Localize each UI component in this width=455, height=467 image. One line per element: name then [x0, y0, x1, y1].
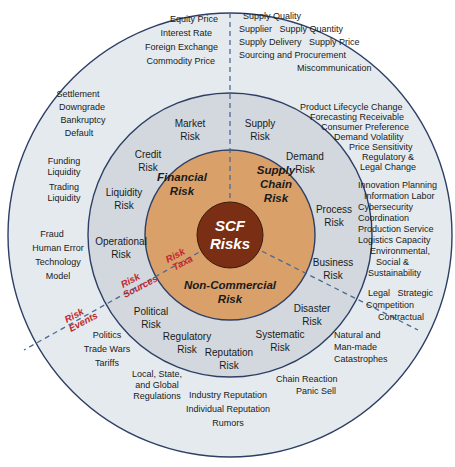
source-credit-line2: Risk: [135, 161, 162, 174]
source-reputation-line2: Risk: [205, 359, 253, 372]
event-logistics-capacity: Logistics Capacity: [358, 235, 437, 246]
events-process: Innovation Planning Information Labor Cy…: [358, 180, 437, 279]
events-operational: Fraud Human Error Technology Model: [32, 227, 84, 283]
source-reputation-risk: ReputationRisk: [205, 346, 253, 372]
source-regulatory-risk: RegulatoryRisk: [163, 330, 211, 356]
event-rumors: Rumors: [186, 416, 270, 430]
taxa-financial: Financial Risk: [157, 170, 207, 198]
event-individual-reputation: Individual Reputation: [186, 402, 270, 416]
event-competition: Competition: [366, 299, 433, 311]
source-political-line2: Risk: [134, 318, 168, 331]
events-demand: Product Lifecycle Change Forecasting Rec…: [300, 102, 416, 172]
source-supply-line2: Risk: [245, 130, 276, 143]
source-credit-risk: CreditRisk: [135, 148, 162, 174]
events-political: Politics Trade Wars Tariffs: [84, 328, 130, 370]
source-political-risk: PoliticalRisk: [134, 305, 168, 331]
event-regulatory-legal-2: Legal Change: [300, 162, 416, 172]
event-interest-rate: Interest Rate: [145, 26, 220, 40]
event-and-global: and Global: [132, 380, 182, 391]
taxa-supply-chain-line2: Chain: [257, 177, 295, 191]
event-human-error: Human Error: [32, 241, 84, 255]
event-funding: Funding: [47, 156, 80, 167]
event-consumer-preference: Consumer Preference: [300, 122, 416, 132]
events-market: Equity Price Interest Rate Foreign Excha…: [145, 12, 220, 68]
event-regulatory-legal-1: Regulatory &: [300, 152, 416, 162]
event-fraud: Fraud: [32, 227, 84, 241]
source-disaster-risk: DisasterRisk: [294, 302, 331, 328]
source-systematic-risk: SystematicRisk: [256, 328, 305, 354]
source-operational-risk: OperationalRisk: [95, 235, 147, 261]
event-demand-volatility: Demand Volatility: [300, 132, 416, 142]
source-process-line1: Process: [316, 203, 352, 216]
event-sustainability: Sustainability: [358, 268, 437, 279]
event-funding-liquidity: Liquidity: [47, 167, 80, 178]
source-market-line1: Market: [175, 117, 206, 130]
event-industry-reputation: Industry Reputation: [186, 388, 270, 402]
source-liquidity-risk: LiquidityRisk: [106, 186, 143, 212]
event-sourcing: Sourcing and Procurement: [239, 49, 372, 62]
source-systematic-line2: Risk: [256, 341, 305, 354]
source-business-risk: BusinessRisk: [313, 256, 354, 282]
event-forecasting-receivable: Forecasting Receivable: [300, 112, 416, 122]
event-trading-liquidity: Liquidity: [47, 193, 80, 204]
event-commodity-price: Commodity Price: [145, 54, 220, 68]
event-contractual: Contractual: [366, 311, 433, 323]
event-social: Social &: [358, 257, 437, 268]
events-liquidity: Funding Liquidity Trading Liquidity: [47, 156, 80, 204]
source-liquidity-line1: Liquidity: [106, 186, 143, 199]
event-model: Model: [32, 269, 84, 283]
event-legal-strategic: Legal Strategic: [366, 287, 433, 299]
event-environmental: Environmental,: [358, 246, 437, 257]
events-disaster: Natural and Man-made Catastrophes: [334, 329, 388, 365]
source-business-line1: Business: [313, 256, 354, 269]
event-miscommunication: Miscommunication: [239, 62, 372, 75]
event-catastrophes: Catastrophes: [334, 353, 388, 365]
source-operational-line2: Risk: [95, 248, 147, 261]
source-disaster-line1: Disaster: [294, 302, 331, 315]
event-downgrade: Downgrade: [50, 101, 105, 114]
event-settlement: Settlement: [50, 88, 105, 101]
event-default: Default: [50, 127, 105, 140]
taxa-supply-chain-line3: Risk: [257, 191, 295, 205]
event-information-labor: Information Labor: [358, 191, 437, 202]
event-supply-quality: Supply Quality: [239, 10, 372, 23]
event-panic-sell: Panic Sell: [276, 385, 338, 397]
taxa-financial-line2: Risk: [157, 184, 207, 198]
events-business: Legal Strategic Competition Contractual: [366, 287, 433, 323]
taxa-non-commercial: Non-Commercial Risk: [184, 278, 276, 306]
event-chain-reaction: Chain Reaction: [276, 373, 338, 385]
source-business-line2: Risk: [313, 269, 354, 282]
source-regulatory-line1: Regulatory: [163, 330, 211, 343]
source-supply-line1: Supply: [245, 117, 276, 130]
event-cybersecurity: Cybersecurity: [358, 202, 437, 213]
source-liquidity-line2: Risk: [106, 199, 143, 212]
taxa-non-commercial-line2: Risk: [184, 292, 276, 306]
center-label: SCF Risks: [210, 217, 250, 253]
event-local-state: Local, State,: [132, 369, 182, 380]
taxa-non-commercial-line1: Non-Commercial: [184, 278, 276, 292]
taxa-financial-line1: Financial: [157, 170, 207, 184]
event-technology: Technology: [32, 255, 84, 269]
center-line2: Risks: [210, 235, 250, 253]
source-process-risk: ProcessRisk: [316, 203, 352, 229]
event-regulations: Regulations: [132, 391, 182, 402]
event-bankruptcy: Bankruptcy: [50, 114, 105, 127]
event-delivery-price: Supply Delivery Supply Price: [239, 36, 372, 49]
events-supply: Supply Quality Supplier Supply Quantity …: [239, 10, 372, 75]
event-trade-wars: Trade Wars: [84, 342, 130, 356]
source-regulatory-line2: Risk: [163, 343, 211, 356]
event-price-sensitivity: Price Sensitivity: [300, 142, 416, 152]
event-natural: Natural and: [334, 329, 388, 341]
events-reputation: Industry Reputation Individual Reputatio…: [186, 388, 270, 430]
event-politics: Politics: [84, 328, 130, 342]
events-credit: Settlement Downgrade Bankruptcy Default: [50, 88, 105, 140]
source-reputation-line1: Reputation: [205, 346, 253, 359]
event-trading: Trading: [47, 182, 80, 193]
center-line1: SCF: [210, 217, 250, 235]
event-equity-price: Equity Price: [145, 12, 220, 26]
event-man-made: Man-made: [334, 341, 388, 353]
source-supply-risk: SupplyRisk: [245, 117, 276, 143]
source-political-line1: Political: [134, 305, 168, 318]
event-tariffs: Tariffs: [84, 356, 130, 370]
event-supplier-quantity: Supplier Supply Quantity: [239, 23, 372, 36]
